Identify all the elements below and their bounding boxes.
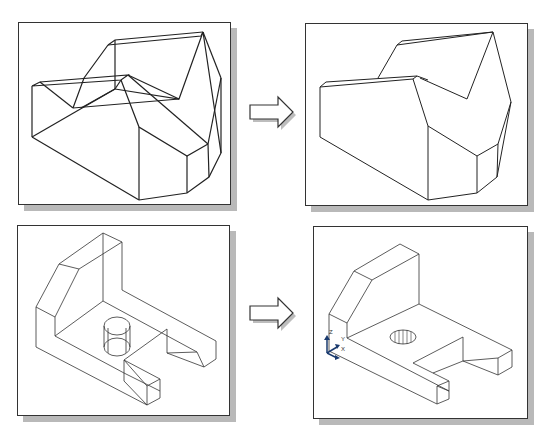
right-arrow-icon: [247, 95, 299, 131]
ucs-icon: Z X Y: [324, 329, 345, 360]
panel-wireframe-solid: [18, 22, 231, 205]
panel-hidden-removed-bracket: Z X Y: [313, 226, 528, 419]
panel-hidden-removed-solid: [305, 23, 528, 206]
ucs-z-label: Z: [329, 329, 333, 335]
panel-wireframe-bracket: [17, 225, 230, 416]
wireframe-bracket-drawing: [18, 226, 231, 417]
ucs-y-label: Y: [341, 336, 345, 342]
ucs-x-label: X: [341, 346, 345, 352]
right-arrow-icon: [247, 296, 299, 332]
hidden-removed-bracket-drawing: Z X Y: [314, 227, 529, 420]
wireframe-solid-drawing: [19, 23, 232, 206]
hidden-removed-solid-drawing: [306, 24, 529, 207]
